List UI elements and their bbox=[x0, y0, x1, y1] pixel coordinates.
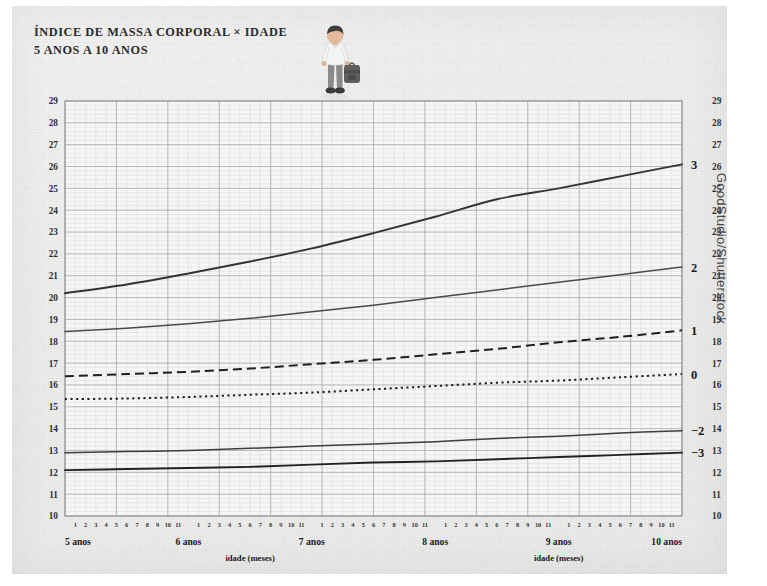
month-tick-6-4: 4 bbox=[228, 521, 232, 528]
curve-label-z1: 1 bbox=[691, 324, 697, 338]
y-tick-right-16: 16 bbox=[712, 380, 722, 390]
y-tick-left-21: 21 bbox=[49, 271, 59, 281]
y-tick-left-20: 20 bbox=[49, 293, 59, 303]
y-tick-left-22: 22 bbox=[49, 249, 59, 259]
month-tick-5-11: 11 bbox=[175, 521, 181, 528]
y-tick-left-25: 25 bbox=[49, 184, 59, 194]
curve-label-z0: 0 bbox=[691, 368, 697, 382]
month-tick-5-10: 10 bbox=[165, 521, 171, 528]
month-tick-9-7: 7 bbox=[629, 521, 632, 528]
y-tick-left-19: 19 bbox=[49, 315, 59, 325]
month-tick-9-2: 2 bbox=[578, 521, 581, 528]
y-tick-left-12: 12 bbox=[49, 468, 59, 478]
month-tick-8-8: 8 bbox=[516, 521, 519, 528]
y-tick-left-27: 27 bbox=[49, 140, 59, 150]
year-tick-8-anos: 8 anos bbox=[422, 536, 448, 547]
month-tick-6-10: 10 bbox=[288, 521, 294, 528]
month-tick-5-9: 9 bbox=[156, 521, 159, 528]
month-tick-5-2: 2 bbox=[84, 521, 87, 528]
month-tick-5-6: 6 bbox=[125, 521, 128, 528]
y-tick-left-10: 10 bbox=[49, 511, 59, 521]
month-tick-7-2: 2 bbox=[331, 521, 334, 528]
month-tick-8-7: 7 bbox=[506, 521, 509, 528]
month-tick-8-4: 4 bbox=[475, 521, 479, 528]
month-tick-8-10: 10 bbox=[535, 521, 541, 528]
year-tick-6-anos: 6 anos bbox=[175, 536, 201, 547]
y-tick-right-17: 17 bbox=[712, 359, 722, 369]
month-tick-6-5: 5 bbox=[238, 521, 241, 528]
y-tick-left-24: 24 bbox=[49, 206, 59, 216]
month-tick-6-6: 6 bbox=[249, 521, 252, 528]
image-credit: GoodStudio/Shutterstock bbox=[714, 173, 729, 324]
month-tick-6-3: 3 bbox=[218, 521, 221, 528]
month-tick-7-10: 10 bbox=[411, 521, 417, 528]
month-tick-7-1: 1 bbox=[321, 521, 324, 528]
month-tick-7-7: 7 bbox=[382, 521, 385, 528]
y-tick-left-11: 11 bbox=[49, 490, 58, 500]
y-tick-left-16: 16 bbox=[49, 380, 59, 390]
month-tick-7-3: 3 bbox=[341, 521, 344, 528]
y-tick-right-13: 13 bbox=[712, 446, 722, 456]
month-tick-9-4: 4 bbox=[598, 521, 602, 528]
month-tick-8-1: 1 bbox=[444, 521, 447, 528]
month-tick-5-1: 1 bbox=[74, 521, 77, 528]
bmi-for-age-chart: 3210−2−310101111121213131414151516161717… bbox=[12, 6, 727, 574]
y-tick-left-17: 17 bbox=[49, 359, 59, 369]
month-tick-7-6: 6 bbox=[372, 521, 375, 528]
month-tick-7-5: 5 bbox=[362, 521, 365, 528]
year-tick-10-anos: 10 anos bbox=[651, 536, 682, 547]
x-axis-title-right: idade (meses) bbox=[534, 553, 584, 563]
month-tick-5-4: 4 bbox=[105, 521, 109, 528]
y-tick-right-10: 10 bbox=[712, 511, 722, 521]
y-tick-left-29: 29 bbox=[49, 96, 59, 106]
month-tick-9-10: 10 bbox=[658, 521, 664, 528]
y-tick-right-12: 12 bbox=[712, 468, 722, 478]
y-tick-right-28: 28 bbox=[712, 118, 722, 128]
month-tick-8-9: 9 bbox=[526, 521, 529, 528]
y-tick-left-15: 15 bbox=[49, 402, 59, 412]
y-tick-right-18: 18 bbox=[712, 337, 722, 347]
curve-label-z-3: −3 bbox=[691, 446, 704, 460]
y-tick-left-18: 18 bbox=[49, 337, 59, 347]
month-tick-7-8: 8 bbox=[392, 521, 395, 528]
curve-label-z-2: −2 bbox=[691, 424, 704, 438]
month-tick-5-3: 3 bbox=[94, 521, 97, 528]
year-tick-7-anos: 7 anos bbox=[299, 536, 325, 547]
y-tick-right-26: 26 bbox=[712, 162, 722, 172]
month-tick-5-8: 8 bbox=[146, 521, 149, 528]
y-tick-right-14: 14 bbox=[712, 424, 722, 434]
month-tick-9-11: 11 bbox=[669, 521, 675, 528]
y-tick-right-15: 15 bbox=[712, 402, 722, 412]
y-tick-right-29: 29 bbox=[712, 96, 722, 106]
month-tick-8-6: 6 bbox=[495, 521, 498, 528]
month-tick-8-3: 3 bbox=[464, 521, 467, 528]
month-tick-9-1: 1 bbox=[567, 521, 570, 528]
month-tick-6-9: 9 bbox=[279, 521, 282, 528]
month-tick-9-9: 9 bbox=[650, 521, 653, 528]
month-tick-8-2: 2 bbox=[454, 521, 457, 528]
month-tick-6-11: 11 bbox=[299, 521, 305, 528]
month-tick-7-4: 4 bbox=[351, 521, 355, 528]
curve-label-z3: 3 bbox=[691, 158, 697, 172]
chart-card: ÍNDICE DE MASSA CORPORAL × IDADE 5 ANOS … bbox=[12, 6, 727, 574]
curve-label-z2: 2 bbox=[691, 261, 697, 275]
month-tick-6-1: 1 bbox=[197, 521, 200, 528]
month-tick-9-6: 6 bbox=[619, 521, 622, 528]
month-tick-9-3: 3 bbox=[588, 521, 591, 528]
month-tick-6-2: 2 bbox=[207, 521, 210, 528]
year-tick-5-anos: 5 anos bbox=[65, 536, 91, 547]
y-tick-right-11: 11 bbox=[712, 490, 721, 500]
month-tick-7-9: 9 bbox=[403, 521, 406, 528]
month-tick-8-5: 5 bbox=[485, 521, 488, 528]
y-tick-left-23: 23 bbox=[49, 227, 59, 237]
y-tick-right-27: 27 bbox=[712, 140, 722, 150]
month-tick-9-5: 5 bbox=[608, 521, 611, 528]
month-tick-6-8: 8 bbox=[269, 521, 272, 528]
x-axis-title-left: idade (meses) bbox=[225, 553, 275, 563]
y-tick-left-28: 28 bbox=[49, 118, 59, 128]
y-tick-left-13: 13 bbox=[49, 446, 59, 456]
month-tick-8-11: 11 bbox=[545, 521, 551, 528]
year-tick-9-anos: 9 anos bbox=[546, 536, 572, 547]
month-tick-7-11: 11 bbox=[422, 521, 428, 528]
month-tick-6-7: 7 bbox=[259, 521, 262, 528]
